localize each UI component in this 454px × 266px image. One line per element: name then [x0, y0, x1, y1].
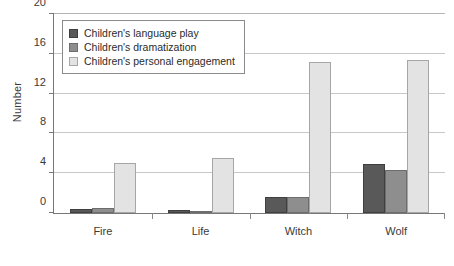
bar [265, 197, 287, 213]
legend-swatch-icon [69, 57, 78, 66]
legend-swatch-icon [69, 29, 78, 38]
legend-item-label: Children's personal engagement [84, 54, 235, 68]
bar [287, 197, 309, 213]
legend-item: Children's dramatization [69, 40, 235, 54]
y-axis-tick [49, 212, 54, 213]
bar-chart: Number 048121620FireLifeWitchWolf Childr… [0, 0, 454, 266]
y-axis-tick [49, 93, 54, 94]
x-axis-separator [347, 213, 348, 219]
bar [114, 163, 136, 213]
x-axis-tick-label: Witch [285, 225, 313, 237]
bar [309, 62, 331, 213]
x-axis-tick-label: Wolf [385, 225, 407, 237]
bar [385, 170, 407, 213]
x-axis-separator [250, 213, 251, 219]
y-axis-tick [49, 53, 54, 54]
y-axis-tick-label: 4 [40, 155, 46, 167]
y-axis-tick-label: 8 [40, 115, 46, 127]
y-axis-tick-label: 0 [40, 195, 46, 207]
y-axis-tick [49, 172, 54, 173]
x-axis-separator [444, 213, 445, 219]
x-axis-tick-label: Life [192, 225, 210, 237]
bar [92, 208, 114, 213]
bar [212, 158, 234, 213]
bar [407, 60, 429, 213]
x-axis-tick-label: Fire [93, 225, 112, 237]
bar [70, 209, 92, 213]
legend-item: Children's language play [69, 26, 235, 40]
x-axis-separator [152, 213, 153, 219]
gridline [54, 13, 445, 14]
y-axis-tick-label: 16 [34, 36, 46, 48]
gridline [54, 93, 445, 94]
legend-swatch-icon [69, 43, 78, 52]
y-axis-tick-label: 12 [34, 76, 46, 88]
legend-item-label: Children's language play [84, 26, 199, 40]
bar [363, 164, 385, 213]
legend-item-label: Children's dramatization [84, 40, 196, 54]
y-axis-title: Number [11, 57, 23, 147]
y-axis-tick [49, 132, 54, 133]
y-axis-tick [49, 13, 54, 14]
bar [168, 210, 190, 213]
bar [190, 211, 212, 213]
y-axis-tick-label: 20 [34, 0, 46, 8]
gridline [54, 132, 445, 133]
chart-legend: Children's language playChildren's drama… [62, 20, 245, 74]
legend-item: Children's personal engagement [69, 54, 235, 68]
